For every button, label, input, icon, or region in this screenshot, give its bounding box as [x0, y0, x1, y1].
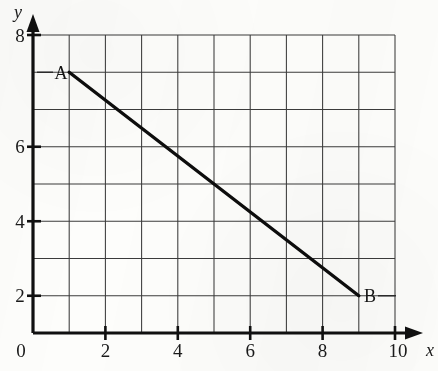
x-tick-label-4: 4: [173, 340, 183, 361]
y-tick-label-8: 8: [15, 25, 25, 46]
coordinate-graph: y x 0 2 4 6 8 2 4 6 8 10 A B: [0, 0, 438, 371]
y-tick-label-2: 2: [15, 285, 25, 306]
y-axis-arrow-icon: [27, 14, 40, 32]
x-axis-label: x: [425, 340, 434, 360]
x-tick-label-8: 8: [318, 340, 328, 361]
y-tick-label-4: 4: [15, 211, 25, 232]
point-b-label: B: [364, 286, 376, 306]
x-tick-label-2: 2: [101, 340, 111, 361]
x-axis-arrow-icon: [405, 327, 423, 340]
x-tick-label-6: 6: [245, 340, 255, 361]
y-tick-label-6: 6: [15, 136, 25, 157]
figure-canvas: y x 0 2 4 6 8 2 4 6 8 10 A B: [0, 0, 438, 371]
y-axis-label: y: [12, 2, 22, 22]
x-tick-label-10: 10: [389, 340, 408, 361]
point-a-label: A: [55, 63, 68, 83]
origin-tick-label: 0: [16, 340, 26, 361]
